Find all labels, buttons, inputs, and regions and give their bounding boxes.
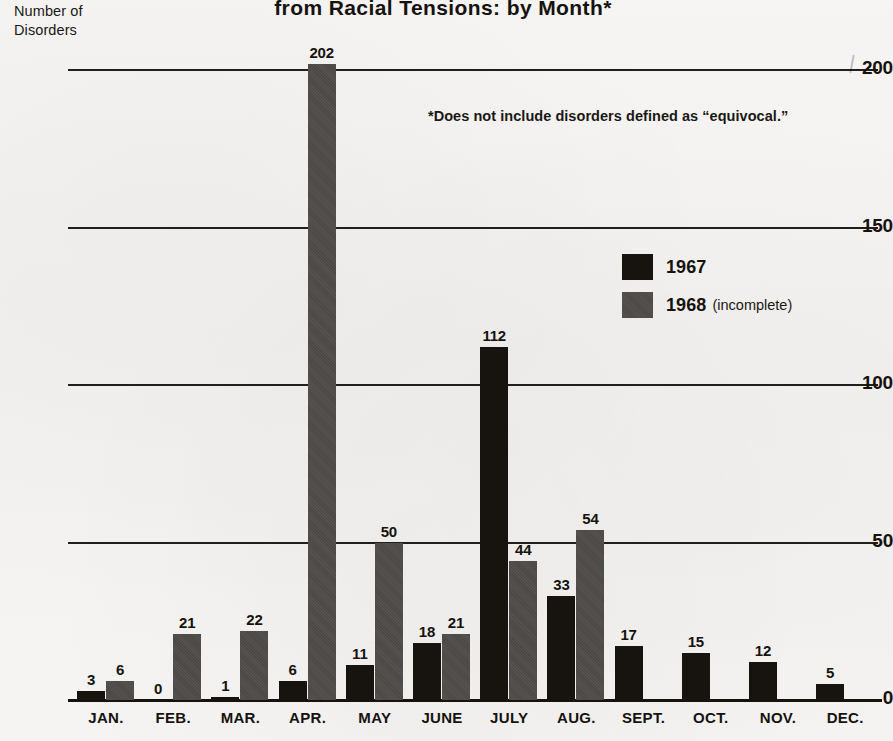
bar-1967-oct: 15 <box>682 653 710 700</box>
x-axis-label-mar: MAR. <box>221 709 261 726</box>
bar-1967-dec: 5 <box>816 684 844 700</box>
bar-value-label: 18 <box>419 623 435 640</box>
bar-1967-june: 18 <box>413 643 441 700</box>
x-axis-label-july: JULY <box>490 709 528 726</box>
legend-swatch-1968 <box>622 292 653 318</box>
bar-group: 11244JULY <box>480 60 538 700</box>
bar-1968-aug: 54 <box>576 530 604 700</box>
x-axis-label-sept: SEPT. <box>622 709 665 726</box>
bar-value-label: 0 <box>154 680 162 697</box>
bar-1968-jan: 6 <box>106 681 134 700</box>
bar-value-label: 1 <box>221 677 229 694</box>
x-axis-label-feb: FEB. <box>156 709 191 726</box>
x-axis-label-jan: JAN. <box>88 709 123 726</box>
x-axis-label-apr: APR. <box>289 709 326 726</box>
bar-1968-may: 50 <box>375 543 403 701</box>
bar-1967-july: 112 <box>480 347 508 700</box>
bar-1968-june: 21 <box>442 634 470 700</box>
bar-1967-may: 11 <box>346 665 374 700</box>
bar-value-label: 21 <box>179 614 195 631</box>
bar-value-label: 54 <box>582 510 598 527</box>
legend-item-1967: 1967 <box>622 248 792 286</box>
bar-value-label: 33 <box>553 576 569 593</box>
bar-layer: 36JAN.021FEB.122MAR.6202APR.1150MAY1821J… <box>0 0 893 741</box>
bar-value-label: 11 <box>352 645 367 662</box>
bar-value-label: 44 <box>515 541 531 558</box>
x-axis-label-oct: OCT. <box>693 709 728 726</box>
bar-group: 6202APR. <box>279 60 337 700</box>
bar-group: 36JAN. <box>77 60 135 700</box>
bar-group: 12NOV. <box>749 60 807 700</box>
legend-swatch-1967 <box>622 254 653 280</box>
bar-value-label: 3 <box>87 671 95 688</box>
bar-group: 3354AUG. <box>547 60 605 700</box>
bar-1968-feb: 21 <box>173 634 201 700</box>
bar-group: 1150MAY <box>346 60 404 700</box>
bar-1967-jan: 3 <box>77 691 105 700</box>
chart-legend: 1967 1968 (incomplete) <box>622 248 792 324</box>
bar-value-label: 6 <box>116 661 124 678</box>
x-axis-label-aug: AUG. <box>557 709 596 726</box>
bar-value-label: 22 <box>246 611 262 628</box>
x-axis-label-dec: DEC. <box>827 709 864 726</box>
bar-group: 5DEC. <box>816 60 874 700</box>
bar-value-label: 12 <box>755 642 771 659</box>
bar-group: 15OCT. <box>682 60 740 700</box>
bar-value-label: 17 <box>620 626 636 643</box>
bar-1968-mar: 22 <box>240 631 268 700</box>
x-axis-label-may: MAY <box>358 709 391 726</box>
chart-figure: from Racial Tensions: by Month* Number o… <box>0 0 893 741</box>
legend-label-1967: 1967 <box>666 257 706 278</box>
legend-label-1968: 1968 <box>666 295 706 316</box>
legend-note-1968: (incomplete) <box>712 297 792 313</box>
bar-group: 021FEB. <box>144 60 202 700</box>
bar-1967-sept: 17 <box>615 646 643 700</box>
legend-item-1968: 1968 (incomplete) <box>622 286 792 324</box>
bar-1967-nov: 12 <box>749 662 777 700</box>
bar-value-label: 202 <box>309 44 333 61</box>
bar-value-label: 112 <box>482 327 506 344</box>
bar-value-label: 6 <box>289 661 297 678</box>
bar-value-label: 21 <box>448 614 464 631</box>
x-axis-label-nov: NOV. <box>760 709 797 726</box>
bar-value-label: 50 <box>381 523 397 540</box>
bar-group: 17SEPT. <box>615 60 673 700</box>
bar-1968-apr: 202 <box>308 64 336 700</box>
bar-value-label: 5 <box>826 664 834 681</box>
bar-value-label: 15 <box>688 633 704 650</box>
bar-group: 122MAR. <box>211 60 269 700</box>
x-axis-label-june: JUNE <box>421 709 462 726</box>
bar-1967-mar: 1 <box>211 697 239 700</box>
bar-group: 1821JUNE <box>413 60 471 700</box>
bar-1967-aug: 33 <box>547 596 575 700</box>
bar-1967-apr: 6 <box>279 681 307 700</box>
bar-1968-july: 44 <box>509 561 537 700</box>
